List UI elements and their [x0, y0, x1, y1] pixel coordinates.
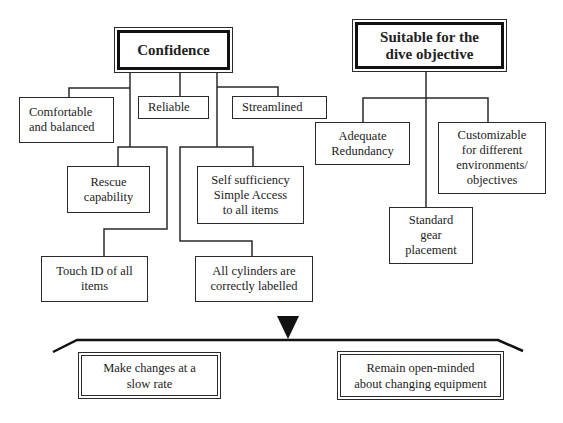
- cylinders-node: All cylinders are correctly labelled: [195, 256, 313, 302]
- reliable-node: Reliable: [138, 96, 209, 119]
- suitable-title: Suitable for the dive objective: [380, 29, 479, 63]
- down-triangle-icon: [277, 316, 299, 339]
- standard-node: Standard gear placement: [389, 207, 473, 264]
- slow-rate-label: Make changes at a slow rate: [103, 360, 196, 392]
- self-sufficiency-node: Self sufficiency Simple Access to all it…: [197, 166, 304, 224]
- redundancy-label: Adequate Redundancy: [331, 129, 393, 159]
- comfortable-label: Comfortable and balanced: [29, 105, 95, 135]
- open-minded-label: Remain open-minded about changing equipm…: [354, 360, 487, 392]
- rescue-node: Rescue capability: [67, 166, 150, 213]
- cylinders-label: All cylinders are correctly labelled: [210, 264, 297, 294]
- touch-id-node: Touch ID of all items: [41, 256, 148, 302]
- touch-id-label: Touch ID of all items: [56, 264, 133, 294]
- slow-rate-node: Make changes at a slow rate: [78, 352, 221, 399]
- rescue-label: Rescue capability: [84, 175, 133, 205]
- confidence-title: Confidence: [137, 42, 210, 59]
- reliable-label: Reliable: [148, 100, 190, 115]
- streamlined-node: Streamlined: [232, 96, 327, 119]
- self-sufficiency-label: Self sufficiency Simple Access to all it…: [211, 173, 290, 218]
- redundancy-node: Adequate Redundancy: [315, 122, 410, 165]
- suitable-node: Suitable for the dive objective: [352, 19, 507, 72]
- customizable-label: Customizable for different environments/…: [456, 128, 528, 188]
- confidence-node: Confidence: [114, 27, 233, 73]
- streamlined-label: Streamlined: [242, 100, 302, 115]
- customizable-node: Customizable for different environments/…: [438, 122, 546, 194]
- open-minded-node: Remain open-minded about changing equipm…: [337, 351, 504, 400]
- standard-label: Standard gear placement: [405, 213, 456, 258]
- comfortable-node: Comfortable and balanced: [19, 97, 114, 143]
